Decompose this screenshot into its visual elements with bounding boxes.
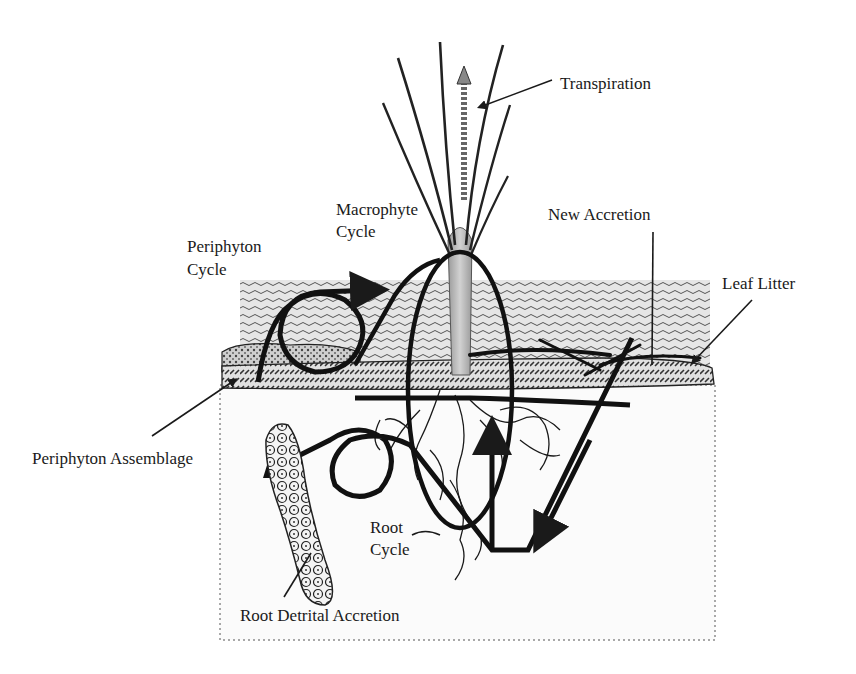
label-new-accretion: New Accretion [548, 205, 651, 224]
label-macrophyte-cycle-2: Cycle [336, 222, 376, 241]
label-root-cycle-2: Cycle [370, 540, 410, 559]
label-periphyton-assemblage: Periphyton Assemblage [32, 449, 193, 468]
label-macrophyte-cycle-1: Macrophyte [336, 200, 418, 219]
wetland-cycle-diagram: Transpiration Macrophyte Cycle New Accre… [0, 0, 856, 674]
label-periphyton-cycle-1: Periphyton [187, 237, 262, 256]
label-root-detrital-accretion: Root Detrital Accretion [240, 606, 400, 625]
label-periphyton-cycle-2: Cycle [187, 260, 227, 279]
label-transpiration: Transpiration [560, 74, 651, 93]
label-leaf-litter: Leaf Litter [722, 274, 795, 293]
label-root-cycle-1: Root [370, 518, 403, 537]
